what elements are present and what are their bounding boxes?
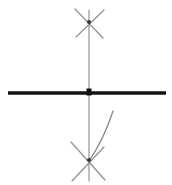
bottom-crossing-node: [87, 158, 91, 162]
top-crossing-node: [87, 20, 91, 24]
center-intersection-node: [87, 89, 92, 96]
diagram-canvas: [0, 0, 172, 185]
figure-svg: [0, 0, 172, 185]
